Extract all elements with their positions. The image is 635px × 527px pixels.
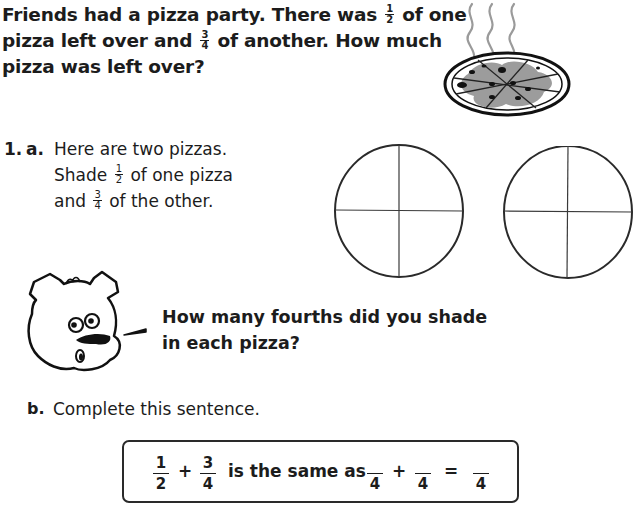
fraction-numerator: 3 bbox=[93, 190, 101, 201]
answer-blank-1[interactable]: 4 bbox=[367, 455, 383, 492]
fraction-one-half: 1 2 bbox=[153, 455, 169, 492]
intro-text: of another. How much bbox=[211, 30, 442, 51]
speech-indicator-icon bbox=[122, 322, 148, 332]
fraction-bar bbox=[473, 473, 489, 474]
fraction-three-fourths: 3 4 bbox=[200, 455, 216, 492]
sentence-phrase: is the same as bbox=[228, 461, 366, 481]
fraction-one-half: 12 bbox=[115, 164, 123, 185]
fraction-denominator: 4 bbox=[370, 476, 380, 492]
fraction-denominator: 4 bbox=[476, 476, 486, 492]
steaming-pizza-icon bbox=[440, 0, 580, 122]
fraction-bar bbox=[367, 473, 383, 474]
question-number: 1. bbox=[4, 136, 22, 162]
fraction-denominator: 4 bbox=[93, 201, 101, 211]
part-a-text: Shade bbox=[54, 165, 113, 185]
fraction-three-fourths: 34 bbox=[200, 30, 209, 51]
fraction-numerator: 1 bbox=[156, 455, 166, 471]
fraction-one-half: 12 bbox=[385, 4, 394, 25]
part-a-line-2: Shade 12 of one pizza bbox=[54, 162, 233, 188]
pizza-circle-2[interactable] bbox=[503, 146, 635, 282]
pizza-circle-1[interactable] bbox=[334, 144, 466, 280]
mascot-question: How many fourths did you shade in each p… bbox=[162, 304, 487, 356]
part-a-text: of the other. bbox=[104, 191, 214, 211]
fraction-three-fourths: 34 bbox=[93, 190, 101, 211]
fraction-denominator: 2 bbox=[115, 175, 123, 185]
fraction-bar bbox=[200, 473, 216, 474]
part-a-instructions: Here are two pizzas. Shade 12 of one piz… bbox=[54, 136, 233, 214]
fraction-denominator: 4 bbox=[203, 476, 213, 492]
part-a-text: and bbox=[54, 191, 91, 211]
mascot-question-line-1: How many fourths did you shade bbox=[162, 304, 487, 330]
part-a-line-1: Here are two pizzas. bbox=[54, 136, 233, 162]
fraction-denominator: 2 bbox=[156, 476, 166, 492]
plus-sign: + bbox=[392, 461, 406, 481]
equals-sign: = bbox=[444, 461, 458, 481]
intro-line-2: pizza left over and 34 of another. How m… bbox=[2, 28, 432, 54]
answer-blank-3[interactable]: 4 bbox=[473, 455, 489, 492]
bear-mascot-icon bbox=[20, 264, 130, 376]
fraction-numerator: 3 bbox=[200, 30, 209, 41]
fraction-denominator: 4 bbox=[200, 41, 209, 51]
part-b-instruction: Complete this sentence. bbox=[53, 396, 260, 422]
plus-sign: + bbox=[178, 461, 192, 481]
part-a-text: of one pizza bbox=[125, 165, 233, 185]
fraction-bar bbox=[415, 473, 431, 474]
intro-text: pizza left over and bbox=[2, 30, 198, 51]
intro-problem: Friends had a pizza party. There was 12 … bbox=[2, 2, 432, 80]
fraction-numerator: 1 bbox=[385, 4, 394, 15]
fraction-bar bbox=[153, 473, 169, 474]
part-a-line-3: and 34 of the other. bbox=[54, 188, 233, 214]
fraction-numerator: 3 bbox=[203, 455, 213, 471]
fraction-denominator: 4 bbox=[418, 476, 428, 492]
part-b-label: b. bbox=[27, 396, 45, 422]
fraction-denominator: 2 bbox=[385, 15, 394, 25]
answer-blank-2[interactable]: 4 bbox=[415, 455, 431, 492]
fraction-numerator: 1 bbox=[115, 164, 123, 175]
intro-line-1: Friends had a pizza party. There was 12 … bbox=[2, 2, 432, 28]
part-a-label: a. bbox=[26, 136, 44, 162]
intro-text: Friends had a pizza party. There was bbox=[2, 4, 383, 25]
sentence-box: 1 2 + 3 4 is the same as 4 + 4 = 4 bbox=[122, 440, 519, 503]
intro-line-3: pizza was left over? bbox=[2, 54, 432, 80]
mascot-question-line-2: in each pizza? bbox=[162, 330, 487, 356]
